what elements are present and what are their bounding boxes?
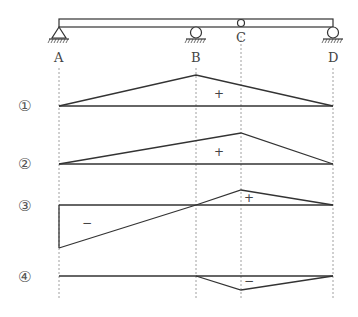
label-b: B: [191, 50, 201, 65]
plus-sign: +: [244, 191, 254, 205]
minus-sign: −: [82, 216, 92, 230]
roller-support-icon: [322, 27, 343, 43]
plus-sign: +: [214, 145, 224, 159]
label-c: C: [236, 30, 246, 45]
label-a: A: [53, 50, 64, 65]
hinge-icon: [238, 20, 245, 27]
beam: [59, 19, 333, 27]
diagram-number-4: ④: [18, 268, 31, 286]
diagram-4: [59, 276, 333, 290]
diagram-number-2: ②: [18, 155, 31, 173]
plus-sign: +: [214, 87, 224, 101]
pin-support-icon: [48, 27, 69, 43]
minus-sign: −: [244, 274, 254, 288]
influence-line-diagram: A B C D ① + ② + ③ − + ④ −: [0, 0, 358, 317]
label-d: D: [328, 50, 338, 65]
diagram-number-1: ①: [18, 97, 31, 115]
roller-support-icon: [185, 27, 206, 43]
diagram-number-3: ③: [18, 197, 31, 215]
diagram-3: [59, 190, 333, 248]
